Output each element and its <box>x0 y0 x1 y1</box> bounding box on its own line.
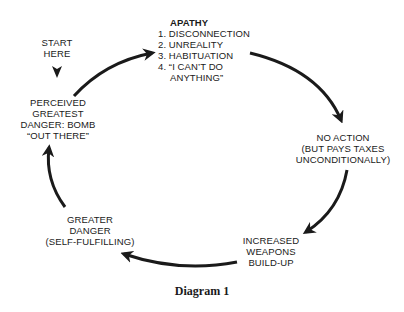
perceived-line-1: PERCEIVED <box>8 97 108 108</box>
apathy-item-4: 4. “I CAN’T DO <box>158 61 250 72</box>
greater-line-1: GREATER <box>40 214 140 225</box>
no-action-line-1: NO ACTION <box>288 132 398 143</box>
start-line-1: START <box>37 37 77 48</box>
increased-line-1: INCREASED <box>231 235 311 246</box>
arrow-increased-to-greater <box>124 254 237 266</box>
start-here-label: START HERE <box>37 37 77 59</box>
arrow-greater-to-perceived <box>48 148 65 207</box>
arrow-perceived-to-apathy <box>74 53 152 96</box>
perceived-line-2: GREATEST <box>8 108 108 119</box>
increased-line-2: WEAPONS <box>231 246 311 257</box>
arrow-no-action-to-increased <box>306 170 347 232</box>
no-action-line-2: (BUT PAYS TAXES <box>288 143 398 154</box>
apathy-title: APATHY <box>158 17 250 28</box>
start-pointer-icon <box>52 66 62 78</box>
start-line-2: HERE <box>37 48 77 59</box>
arrow-apathy-to-no-action <box>250 53 341 120</box>
perceived-line-4: “OUT THERE” <box>8 130 108 141</box>
diagram-caption: Diagram 1 <box>0 284 404 299</box>
apathy-item-2: 2. UNREALITY <box>158 39 250 50</box>
node-perceived-danger: PERCEIVED GREATEST DANGER: BOMB “OUT THE… <box>8 97 108 141</box>
apathy-item-1: 1. DISCONNECTION <box>158 28 250 39</box>
apathy-item-4-cont: ANYTHING” <box>158 72 250 83</box>
greater-line-3: (SELF-FULFILLING) <box>40 236 140 247</box>
no-action-line-3: UNCONDITIONALLY) <box>288 154 398 165</box>
greater-line-2: DANGER <box>40 225 140 236</box>
perceived-line-3: DANGER: BOMB <box>8 119 108 130</box>
increased-line-3: BUILD-UP <box>231 257 311 268</box>
node-greater-danger: GREATER DANGER (SELF-FULFILLING) <box>40 214 140 247</box>
node-apathy: APATHY 1. DISCONNECTION 2. UNREALITY 3. … <box>158 17 250 83</box>
apathy-item-3: 3. HABITUATION <box>158 50 250 61</box>
cycle-diagram: START HERE PERCEIVED GREATEST DANGER: BO… <box>0 0 404 312</box>
node-no-action: NO ACTION (BUT PAYS TAXES UNCONDITIONALL… <box>288 132 398 165</box>
node-increased-weapons: INCREASED WEAPONS BUILD-UP <box>231 235 311 268</box>
